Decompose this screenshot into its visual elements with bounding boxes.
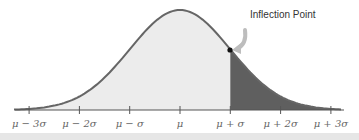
distribution-chart: μ − 3σμ − 2σμ − σμμ + σμ + 2σμ + 3σ Infl… — [0, 0, 359, 140]
x-axis-tick-label: μ + 3σ — [314, 118, 350, 129]
x-axis-tick-label: μ − σ — [116, 118, 145, 129]
x-axis-tick-label: μ − 2σ — [62, 118, 98, 129]
bottom-border — [0, 133, 359, 140]
normal-distribution-diagram: μ − 3σμ − 2σμ − σμμ + σμ + 2σμ + 3σ Infl… — [0, 0, 359, 140]
x-axis-tick-label: μ − 3σ — [12, 118, 48, 129]
inflection-point-label: Inflection Point — [250, 9, 316, 20]
x-axis-tick-labels: μ − 3σμ − 2σμ − σμμ + σμ + 2σμ + 3σ — [12, 118, 349, 129]
light-shaded-area — [29, 10, 230, 110]
inflection-point-marker — [227, 47, 232, 52]
x-axis-tick-label: μ — [177, 118, 184, 129]
x-axis-tick-label: μ + σ — [216, 118, 245, 129]
x-axis-tick-label: μ + 2σ — [263, 118, 299, 129]
dark-shaded-area — [230, 49, 341, 110]
